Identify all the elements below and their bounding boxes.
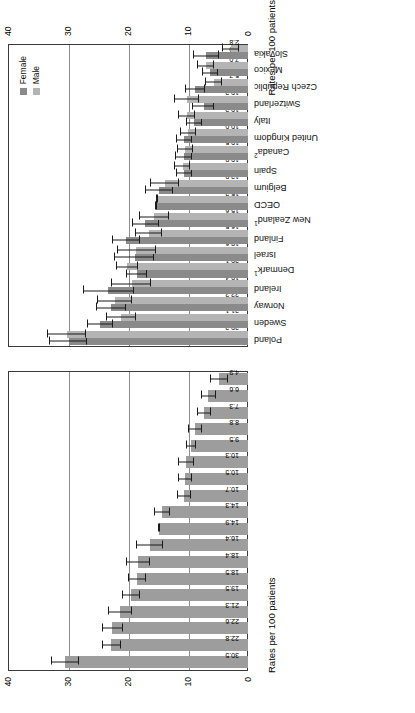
bar-slot[interactable]: 23.319.4 (8, 279, 248, 296)
bar-slot[interactable]: 14.813.9 (8, 178, 248, 195)
bar-slot[interactable]: 10.610.0 (8, 128, 248, 145)
bar-slot[interactable]: 6.37.0 (8, 61, 248, 78)
bar-female[interactable]: 22.8 (111, 304, 248, 311)
error-bar (197, 412, 211, 413)
bar-slot[interactable]: 10.5 (8, 471, 248, 488)
bar-total[interactable]: 18.5 (137, 573, 248, 585)
bar-female[interactable]: 10.6 (184, 136, 248, 143)
category-label-text: Finland (254, 233, 284, 242)
plot-area-by-sex: 29.930.224.621.122.822.223.319.418.520.1… (0, 0, 258, 357)
bar-total[interactable]: 21.3 (120, 606, 248, 618)
category-label: Mexico (250, 61, 360, 78)
bar-slot[interactable]: 10.610.9 (8, 161, 248, 178)
bar-slot[interactable]: 9.010.2 (8, 111, 248, 128)
bar-female-wrap: 20.3 (8, 237, 248, 244)
bar-male-wrap: 10.5 (8, 146, 248, 153)
chart-panel-by-sex: 29.930.224.621.122.822.223.319.418.520.1… (0, 0, 415, 357)
bar-slot[interactable]: 29.930.2 (8, 329, 248, 346)
bar-slot[interactable]: 10.710.5 (8, 145, 248, 162)
bar-slot[interactable]: 22.6 (8, 620, 248, 637)
bar-slot[interactable]: 10.3 (8, 454, 248, 471)
bar-slot[interactable]: 8.85.7 (8, 78, 248, 95)
bar-total[interactable]: 18.4 (138, 556, 248, 568)
bar-slot[interactable]: 18.4 (8, 554, 248, 571)
category-label-text: New Zealand1 (254, 214, 311, 227)
bar-male[interactable]: 16.5 (149, 230, 248, 237)
bar-total[interactable]: 8.8 (195, 423, 248, 435)
bar-slot[interactable]: 15.315.2 (8, 195, 248, 212)
bar-male-wrap: 15.2 (8, 196, 248, 203)
error-bar (177, 149, 193, 150)
bar-female[interactable]: 10.7 (184, 153, 248, 160)
bar-slot[interactable]: 18.520.1 (8, 262, 248, 279)
error-bar (188, 429, 202, 430)
bar-female[interactable]: 17.1 (145, 220, 248, 227)
bar-female-wrap: 23.3 (8, 287, 248, 294)
bar-slot[interactable]: 22.8 (8, 637, 248, 654)
bar-male[interactable]: 22.2 (115, 297, 248, 304)
bar-total[interactable]: 14.9 (159, 523, 248, 535)
bar-slot[interactable]: 10.7 (8, 487, 248, 504)
bar-female[interactable]: 10.6 (184, 170, 248, 177)
bar-total[interactable]: 19.5 (131, 589, 248, 601)
bar-total[interactable]: 10.7 (184, 490, 248, 502)
bar-slot[interactable]: 9.5 (8, 437, 248, 454)
bar-female[interactable]: 18.5 (137, 270, 248, 277)
bar-male[interactable]: 30.2 (67, 331, 248, 338)
bar-slot[interactable]: 7.3 (8, 404, 248, 421)
bar-male[interactable]: 10.2 (187, 112, 248, 119)
bar-female[interactable]: 29.9 (69, 338, 248, 345)
bar-slot[interactable]: 20.316.5 (8, 229, 248, 246)
bar-total[interactable]: 9.5 (191, 440, 248, 452)
error-bar (111, 283, 151, 284)
bar-slot[interactable]: 17.115.6 (8, 212, 248, 229)
bar-slot[interactable]: 21.3 (8, 604, 248, 621)
bar-slot[interactable]: 4.9 (8, 371, 248, 388)
bar-female[interactable]: 9.0 (194, 119, 248, 126)
bar-total[interactable]: 22.8 (111, 639, 248, 651)
bar-female-wrap: 8.8 (8, 86, 248, 93)
bar-male-wrap: 21.1 (8, 314, 248, 321)
bar-slot[interactable]: 16.4 (8, 537, 248, 554)
bar-slot[interactable]: 8.8 (8, 421, 248, 438)
category-label: Slovakia (250, 44, 360, 61)
bar-slot[interactable]: 22.822.2 (8, 296, 248, 313)
bar-male[interactable]: 10.0 (188, 129, 248, 136)
legend-label-female: Female (18, 56, 28, 84)
axis-tick-label: 10 (183, 677, 193, 686)
bar-total[interactable]: 10.5 (185, 473, 248, 485)
y-axis-ticks-by-sex: 010203040 (8, 0, 248, 44)
bar-male-wrap: 10.9 (8, 163, 248, 170)
bar-slot[interactable]: 18.918.6 (8, 245, 248, 262)
bar-slot[interactable]: 7.410.2 (8, 94, 248, 111)
bar-total[interactable]: 16.4 (150, 539, 248, 551)
category-label-text: Slovakia (254, 48, 288, 57)
bar-male[interactable]: 21.1 (121, 314, 248, 321)
bar-slot[interactable]: 30.5 (8, 653, 248, 670)
bar-male[interactable]: 15.2 (157, 196, 248, 203)
bar-female-wrap: 7.4 (8, 103, 248, 110)
category-label-text: Czech Republic (254, 82, 317, 91)
bar-total[interactable]: 22.6 (112, 623, 248, 635)
category-label-text: Poland (254, 334, 282, 343)
bar-female-wrap: 24.6 (8, 321, 248, 328)
error-bar (178, 479, 191, 480)
bar-slot[interactable]: 18.5 (8, 570, 248, 587)
axis-tick-label: 30 (63, 677, 73, 686)
bar-total[interactable]: 14.3 (162, 506, 248, 518)
bar-male[interactable]: 10.5 (185, 146, 248, 153)
bar-total[interactable]: 30.5 (65, 656, 248, 668)
bar-slot[interactable]: 14.3 (8, 504, 248, 521)
bar-female[interactable]: 24.6 (100, 321, 248, 328)
bar-female[interactable]: 15.3 (156, 203, 248, 210)
bar-slot[interactable]: 24.621.1 (8, 312, 248, 329)
bar-slot[interactable]: 19.5 (8, 587, 248, 604)
bar-slot[interactable]: 14.9 (8, 521, 248, 538)
category-labels-by-sex: PolandSwedenNorwayIrelandDenmark1IsraelF… (250, 44, 360, 347)
bar-male[interactable]: 10.9 (183, 163, 248, 170)
bar-male[interactable]: 20.1 (127, 263, 248, 270)
bar-slot[interactable]: 7.02.8 (8, 44, 248, 61)
bar-slot[interactable]: 6.6 (8, 388, 248, 405)
bar-female[interactable]: 20.3 (126, 237, 248, 244)
bar-total[interactable]: 10.3 (186, 456, 248, 468)
